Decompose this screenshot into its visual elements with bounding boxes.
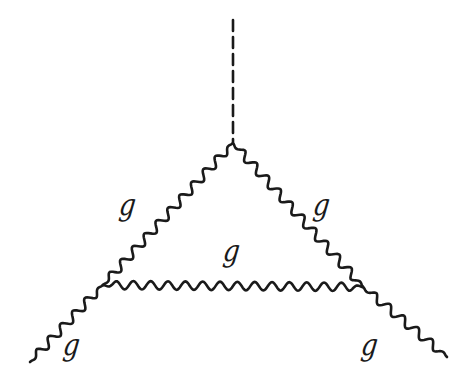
- gluon-line-right-internal: [233, 143, 363, 287]
- feynman-diagram: [0, 0, 472, 381]
- gluon-line-bottom-internal: [103, 281, 363, 291]
